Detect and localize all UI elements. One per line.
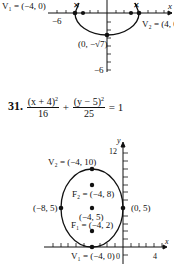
svg-text:✕: ✕ <box>73 1 80 10</box>
top-v1-label: V₁ = (−4, 0) <box>2 2 46 11</box>
fraction-y-numerator: (y − 5) <box>74 96 101 107</box>
bottom-y-axis-label: y <box>117 136 121 145</box>
fraction-y: (y − 5)2 25 <box>73 94 105 119</box>
top-x-axis-label: x <box>168 2 172 11</box>
bottom-x-axis-label: x <box>165 237 169 246</box>
right-point-label: (0, 5) <box>131 204 151 213</box>
fraction-x: (x + 4)2 16 <box>27 94 59 119</box>
problem-number: 31. <box>8 99 23 113</box>
left-point-label: (−8, 5) <box>33 204 58 213</box>
tick-4-label: 4 <box>153 252 157 261</box>
top-neg6-y-label: −6 <box>94 66 104 75</box>
top-v2-label: V₂ = (4, 0 <box>142 20 174 29</box>
v1-label: V₁ = (−4, 0) <box>71 252 115 261</box>
svg-text:✕: ✕ <box>133 1 140 10</box>
fraction-x-denominator: 16 <box>27 108 59 119</box>
top-bottom-point-label: (0, −√7) <box>78 40 108 49</box>
f2-label: F₂ = (−4, 8) <box>72 190 114 199</box>
top-neg6-x-label: −6 <box>52 17 62 26</box>
plus-sign: + <box>63 101 69 113</box>
fraction-y-exponent: 2 <box>101 96 104 102</box>
fraction-x-exponent: 2 <box>55 96 58 102</box>
bottom-points <box>59 167 126 250</box>
v2-label: V₂ = (−4, 10) <box>48 158 96 167</box>
tick-12-label: 12 <box>109 147 117 156</box>
problem-31-equation: 31. (x + 4)2 16 + (y − 5)2 25 = 1 <box>8 94 123 119</box>
f1-label: F₁ = (−4, 2) <box>71 221 113 230</box>
equals-one: = 1 <box>109 101 123 113</box>
fraction-y-denominator: 25 <box>73 108 105 119</box>
fraction-x-numerator: (x + 4) <box>28 96 55 107</box>
top-graph-axes <box>48 0 172 72</box>
origin-label: 0 <box>116 252 120 261</box>
